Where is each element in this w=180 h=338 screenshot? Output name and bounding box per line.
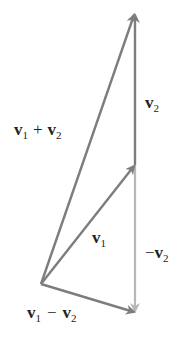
vector-diagram: v2 v1+v2 v1 −v2 v1−v2	[0, 0, 180, 338]
label-v1: v1	[92, 228, 106, 249]
label-diff: v1−v2	[27, 303, 77, 324]
v1-arrow	[41, 166, 134, 284]
label-sum: v1+v2	[14, 120, 62, 141]
label-v2: v2	[145, 93, 159, 114]
sum-arrow	[41, 15, 134, 284]
label-neg-v2: −v2	[145, 243, 169, 264]
